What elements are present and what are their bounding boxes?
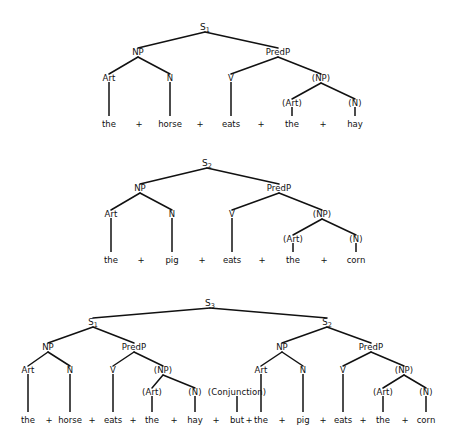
tree-edge: [321, 83, 355, 99]
terminal-word: the: [376, 416, 390, 425]
tree-edge: [278, 57, 321, 74]
word-separator-plus: +: [319, 120, 326, 129]
tree-node-label: PredP: [266, 47, 291, 57]
word-separator-plus: +: [245, 416, 252, 425]
tree-node-np: NP: [134, 184, 146, 193]
tree-edge: [322, 219, 356, 235]
terminal-word: pig: [296, 416, 309, 425]
tree-edge: [138, 57, 170, 74]
tree-node-label: V: [110, 365, 116, 375]
tree-node-label: (Art): [373, 387, 393, 397]
tree-node-predp-b: PredP: [359, 343, 384, 352]
tree-node-label: (NP): [312, 73, 331, 83]
tree-node-label: NP: [276, 342, 288, 352]
tree-node-label: N: [300, 365, 306, 375]
tree-node-n2: (N): [349, 235, 362, 244]
tree-edge: [232, 193, 279, 210]
terminal-word: eats: [104, 416, 122, 425]
tree-node-art2-a: (Art): [142, 388, 162, 397]
tree-node-np-a: NP: [42, 343, 54, 352]
tree-edge: [207, 168, 279, 184]
tree-node-n2-a: (N): [188, 388, 201, 397]
tree-node-s1: S1: [88, 318, 98, 327]
tree-node-label: V: [340, 365, 346, 375]
tree-node-label: (Art): [142, 387, 162, 397]
tree-edge: [205, 32, 278, 48]
terminal-word: pig: [165, 256, 178, 265]
tree-node-n-a: N: [67, 366, 73, 375]
tree-node-root: S2: [202, 159, 212, 168]
terminal-word: corn: [417, 416, 436, 425]
tree-node-art2: (Art): [283, 235, 303, 244]
tree-node-subscript: 1: [206, 26, 210, 34]
tree-node-s2: S2: [322, 318, 332, 327]
word-separator-plus: +: [319, 416, 326, 425]
tree-node-label: S: [200, 22, 206, 32]
terminal-word: eats: [223, 256, 241, 265]
tree-node-label: (N): [188, 387, 201, 397]
tree-node-np2-a: (NP): [154, 366, 173, 375]
terminal-word: but: [230, 416, 244, 425]
tree-node-label: Art: [22, 365, 35, 375]
tree-node-label: N: [169, 209, 175, 219]
tree-node-label: (N): [348, 98, 361, 108]
tree-edge: [231, 57, 278, 74]
tree-lines-layer: [0, 0, 452, 447]
tree-edge: [48, 327, 93, 343]
tree-node-art-b: Art: [255, 366, 268, 375]
word-separator-plus: +: [401, 416, 408, 425]
tree-node-v: V: [229, 210, 235, 219]
terminal-word: the: [21, 416, 35, 425]
word-separator-plus: +: [196, 120, 203, 129]
tree-node-np2: (NP): [313, 210, 332, 219]
terminal-word: the: [145, 416, 159, 425]
tree-edge: [292, 83, 321, 99]
tree-node-np: NP: [132, 48, 144, 57]
tree-edge: [282, 327, 327, 343]
word-separator-plus: +: [198, 256, 205, 265]
tree-node-label: N: [167, 73, 173, 83]
terminal-word: the: [102, 120, 116, 129]
word-separator-plus: +: [212, 416, 219, 425]
tree-node-np-b: NP: [276, 343, 288, 352]
tree-node-label: (NP): [154, 365, 173, 375]
tree-node-label: (NP): [313, 209, 332, 219]
tree-node-v: V: [228, 74, 234, 83]
tree-node-label: V: [228, 73, 234, 83]
tree-node-label: S: [202, 158, 208, 168]
terminal-word: eats: [334, 416, 352, 425]
tree-node-conj: (Conjunction): [208, 388, 267, 397]
tree-node-label: NP: [134, 183, 146, 193]
tree-node-np2-b: (NP): [395, 366, 414, 375]
tree-node-predp: PredP: [267, 184, 292, 193]
tree-node-root: S1: [200, 23, 210, 32]
tree-node-label: Art: [103, 73, 116, 83]
tree-node-subscript: 1: [94, 321, 98, 329]
tree-node-predp-a: PredP: [122, 343, 147, 352]
tree-node-label: (NP): [395, 365, 414, 375]
tree-node-v-a: V: [110, 366, 116, 375]
tree-node-art2: (Art): [282, 99, 302, 108]
syntax-tree-diagram: S1NPPredPArtNV(NP)(Art)(N)thehorseeatsth…: [0, 0, 452, 447]
tree-node-subscript: 2: [328, 321, 332, 329]
terminal-word: horse: [158, 120, 182, 129]
tree-edge: [140, 168, 207, 184]
terminal-word: hay: [187, 416, 203, 425]
tree-node-art-a: Art: [22, 366, 35, 375]
word-separator-plus: +: [257, 120, 264, 129]
word-separator-plus: +: [129, 416, 136, 425]
tree-node-art: Art: [105, 210, 118, 219]
tree-edge: [279, 193, 322, 210]
tree-node-label: PredP: [122, 342, 147, 352]
terminal-word: the: [286, 256, 300, 265]
tree-node-label: Art: [255, 365, 268, 375]
tree-node-label: S: [88, 317, 94, 327]
terminal-word: corn: [347, 256, 366, 265]
tree-node-label: V: [229, 209, 235, 219]
terminal-word: horse: [58, 416, 82, 425]
tree-edge: [140, 193, 172, 210]
tree-node-predp: PredP: [266, 48, 291, 57]
tree-node-n-b: N: [300, 366, 306, 375]
word-separator-plus: +: [359, 416, 366, 425]
tree-node-n2-b: (N): [419, 388, 432, 397]
